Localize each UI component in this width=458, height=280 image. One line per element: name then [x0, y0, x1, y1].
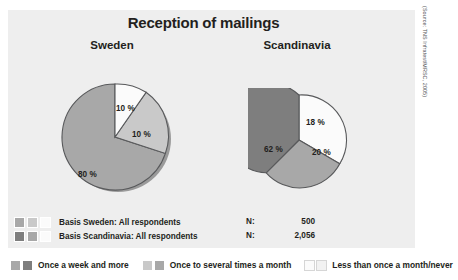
pie-label-sweden-once-a-week: 80 %: [78, 170, 97, 179]
basis-label-scandinavia: Basis Scandinavia: All respondents: [59, 232, 197, 241]
legend-swatch-scandinavia-once-a-week: [22, 260, 33, 271]
source-credit-text: (Source: TNS Infratest/MRSC, 2005): [422, 6, 428, 97]
basis-swatch-scandinavia-2: [27, 231, 38, 242]
legend-swatch-scandinavia-less-than-once: [316, 260, 327, 271]
basis-n-label-sweden: N:: [246, 217, 255, 226]
basis-n-value-scandinavia: 2,056: [281, 231, 315, 240]
basis-swatch-sweden-1: [14, 217, 25, 228]
legend-swatch-sweden-once-to-several: [142, 260, 153, 271]
pie-chart-sweden: 10 % 10 % 80 %: [58, 78, 178, 198]
legend-label-once-a-week: Once a week and more: [38, 260, 129, 270]
pie-title-scandinavia: Scandinavia: [232, 39, 362, 51]
basis-label-sweden: Basis Sweden: All respondents: [59, 218, 181, 227]
pie-label-scandinavia-less-than-once: 18 %: [306, 118, 325, 127]
pie-label-sweden-once-to-several: 10 %: [132, 130, 151, 139]
pie-label-scandinavia-once-a-week: 62 %: [264, 145, 283, 154]
basis-swatch-scandinavia-3: [40, 231, 51, 242]
pie-chart-scandinavia: 18 % 20 % 62 %: [248, 88, 358, 198]
basis-swatch-sweden-2: [27, 217, 38, 228]
pie-sweden-svg: [58, 78, 178, 198]
legend-swatch-sweden-less-than-once: [304, 260, 315, 271]
basis-swatch-scandinavia-1: [14, 231, 25, 242]
basis-legend: Basis Sweden: All respondents Basis Scan…: [14, 216, 344, 244]
legend-swatch-sweden-once-a-week: [10, 260, 21, 271]
basis-swatch-sweden-3: [40, 217, 51, 228]
pie-title-sweden: Sweden: [52, 39, 172, 51]
basis-n-value-sweden: 500: [281, 217, 315, 226]
legend-item-once-to-several: Once to several times a month: [142, 260, 291, 271]
source-credit: (Source: TNS Infratest/MRSC, 2005): [417, 6, 431, 118]
legend-label-less-than-once: Less than once a month/never: [332, 260, 453, 270]
legend-swatch-scandinavia-once-to-several: [154, 260, 165, 271]
legend-label-once-to-several: Once to several times a month: [170, 260, 291, 270]
legend-item-less-than-once: Less than once a month/never: [304, 260, 453, 271]
pie-scandinavia-svg: [248, 88, 358, 198]
pie-label-scandinavia-once-to-several: 20 %: [312, 148, 331, 157]
chart-title: Reception of mailings: [0, 14, 407, 31]
legend-item-once-a-week: Once a week and more: [10, 260, 129, 271]
pie-label-sweden-less-than-once: 10 %: [116, 104, 135, 113]
basis-n-label-scandinavia: N:: [246, 231, 255, 240]
category-legend: Once a week and more Once to several tim…: [10, 258, 458, 272]
